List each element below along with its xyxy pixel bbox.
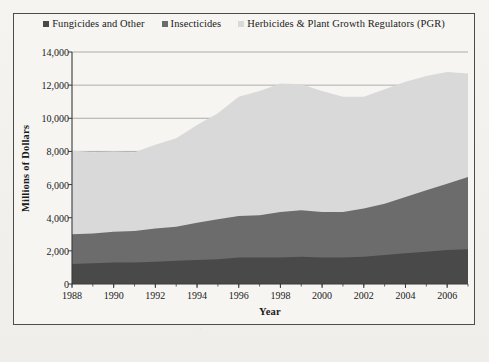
x-axis-title: Year	[72, 306, 468, 317]
legend-swatch-insecticides	[162, 21, 168, 27]
y-tick-label-14000: 14,000	[42, 47, 70, 58]
x-tick-label-2006: 2006	[437, 290, 457, 301]
plot-area	[72, 52, 468, 284]
y-tick-label-12000: 12,000	[42, 80, 70, 91]
y-axis-tick-labels: 14,00012,00010,0008,0006,0004,0002,0000	[14, 52, 69, 284]
legend-label-fungicides: Fungicides and Other	[52, 19, 144, 30]
chart-frame: Fungicides and Other Insecticides Herbic…	[13, 13, 475, 325]
legend-item-fungicides: Fungicides and Other	[43, 19, 144, 30]
legend-item-herbicides: Herbicides & Plant Growth Regulators (PG…	[238, 19, 445, 30]
legend-item-insecticides: Insecticides	[162, 19, 222, 30]
y-tick-label-4000: 4,000	[47, 212, 70, 223]
x-tick-label-2004: 2004	[395, 290, 415, 301]
x-tick-label-1992: 1992	[145, 290, 165, 301]
x-axis-tick-labels: 1988199019921994199619982000200220042006	[72, 290, 468, 304]
y-tick-label-8000: 8,000	[47, 146, 70, 157]
x-tick-label-1998: 1998	[270, 290, 290, 301]
legend-swatch-fungicides	[43, 21, 49, 27]
x-tick-label-1990: 1990	[104, 290, 124, 301]
x-tick-label-2000: 2000	[312, 290, 332, 301]
y-tick-label-10000: 10,000	[42, 113, 70, 124]
stacked-area-plot	[72, 52, 468, 284]
x-tick-label-1994: 1994	[187, 290, 207, 301]
x-tick-label-1996: 1996	[229, 290, 249, 301]
legend-label-insecticides: Insecticides	[171, 19, 222, 30]
x-tick-label-1988: 1988	[62, 290, 82, 301]
legend-swatch-herbicides	[238, 21, 244, 27]
chart-legend: Fungicides and Other Insecticides Herbic…	[14, 19, 474, 30]
y-tick-label-6000: 6,000	[47, 179, 70, 190]
x-tick-label-2002: 2002	[354, 290, 374, 301]
legend-label-herbicides: Herbicides & Plant Growth Regulators (PG…	[247, 19, 445, 30]
y-tick-label-2000: 2,000	[47, 245, 70, 256]
